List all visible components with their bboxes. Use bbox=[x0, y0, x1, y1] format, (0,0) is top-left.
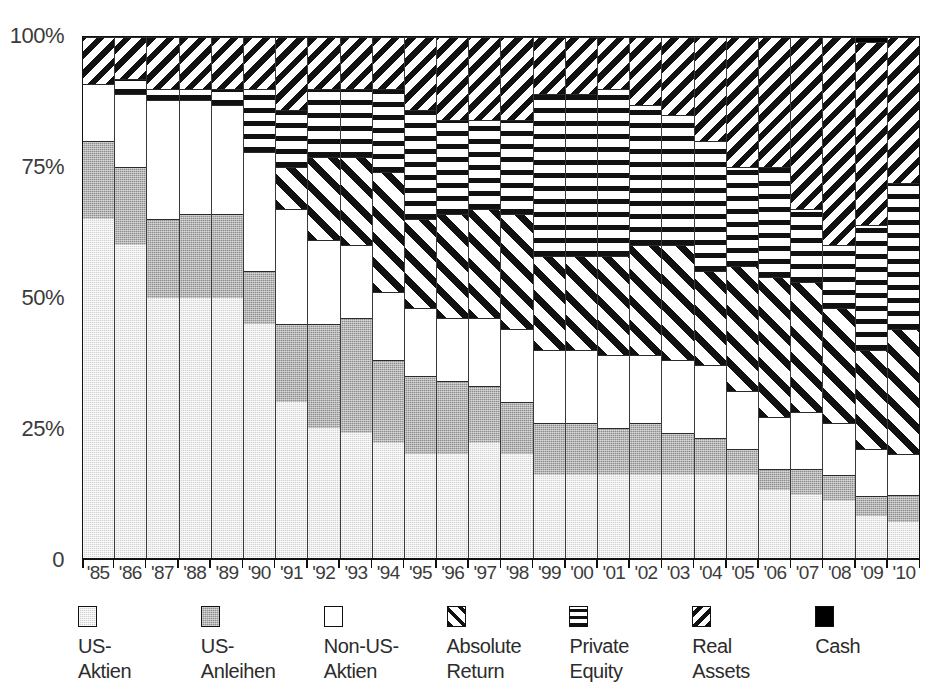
bar-segment[interactable] bbox=[566, 94, 597, 256]
bar-segment[interactable] bbox=[791, 282, 822, 412]
bar-segment[interactable] bbox=[276, 37, 307, 110]
bar-segment[interactable] bbox=[276, 167, 307, 209]
bar-segment[interactable] bbox=[727, 37, 758, 167]
bar-segment[interactable] bbox=[244, 37, 275, 89]
bar-segment[interactable] bbox=[759, 469, 790, 490]
bar-segment[interactable] bbox=[373, 89, 404, 172]
bar-segment[interactable] bbox=[823, 423, 854, 475]
bar-segment[interactable] bbox=[437, 120, 468, 214]
bar-column[interactable] bbox=[695, 37, 727, 558]
bar-segment[interactable] bbox=[180, 89, 211, 99]
bar-column[interactable] bbox=[566, 37, 598, 558]
bar-segment[interactable] bbox=[501, 214, 532, 329]
bar-segment[interactable] bbox=[501, 402, 532, 454]
bar-segment[interactable] bbox=[180, 214, 211, 297]
bar-segment[interactable] bbox=[373, 37, 404, 89]
bar-segment[interactable] bbox=[534, 37, 565, 94]
bar-segment[interactable] bbox=[630, 423, 661, 475]
bar-segment[interactable] bbox=[373, 292, 404, 360]
bar-segment[interactable] bbox=[856, 225, 887, 350]
bar-segment[interactable] bbox=[341, 433, 372, 558]
bar-segment[interactable] bbox=[276, 110, 307, 167]
bar-segment[interactable] bbox=[212, 89, 243, 105]
bar-segment[interactable] bbox=[244, 324, 275, 558]
bar-segment[interactable] bbox=[437, 381, 468, 454]
bar-column[interactable] bbox=[469, 37, 501, 558]
bar-column[interactable] bbox=[115, 37, 147, 558]
bar-segment[interactable] bbox=[566, 37, 597, 94]
bar-segment[interactable] bbox=[823, 501, 854, 558]
bar-segment[interactable] bbox=[212, 37, 243, 89]
bar-segment[interactable] bbox=[501, 120, 532, 214]
bar-segment[interactable] bbox=[566, 475, 597, 558]
bar-column[interactable] bbox=[888, 37, 919, 558]
bar-segment[interactable] bbox=[823, 37, 854, 245]
bar-segment[interactable] bbox=[759, 277, 790, 418]
bar-column[interactable] bbox=[791, 37, 823, 558]
bar-segment[interactable] bbox=[630, 37, 661, 105]
bar-segment[interactable] bbox=[630, 475, 661, 558]
bar-segment[interactable] bbox=[405, 376, 436, 454]
bar-segment[interactable] bbox=[759, 167, 790, 276]
bar-segment[interactable] bbox=[212, 105, 243, 214]
legend-item[interactable]: Real Assets bbox=[692, 606, 815, 694]
bar-column[interactable] bbox=[501, 37, 533, 558]
bar-segment[interactable] bbox=[341, 89, 372, 157]
bar-column[interactable] bbox=[373, 37, 405, 558]
bar-segment[interactable] bbox=[856, 350, 887, 449]
bar-column[interactable] bbox=[856, 37, 888, 558]
bar-segment[interactable] bbox=[308, 37, 339, 89]
bar-segment[interactable] bbox=[244, 152, 275, 272]
bar-segment[interactable] bbox=[373, 443, 404, 558]
bar-column[interactable] bbox=[759, 37, 791, 558]
bar-segment[interactable] bbox=[695, 271, 726, 365]
bar-segment[interactable] bbox=[83, 84, 114, 141]
bar-segment[interactable] bbox=[695, 475, 726, 558]
bar-segment[interactable] bbox=[469, 443, 500, 558]
bar-segment[interactable] bbox=[276, 209, 307, 324]
bar-segment[interactable] bbox=[598, 428, 629, 475]
bar-segment[interactable] bbox=[147, 219, 178, 297]
bar-segment[interactable] bbox=[727, 167, 758, 266]
legend-item[interactable]: Cash bbox=[815, 606, 938, 694]
bar-column[interactable] bbox=[630, 37, 662, 558]
bar-segment[interactable] bbox=[791, 469, 822, 495]
bar-segment[interactable] bbox=[501, 37, 532, 120]
bar-segment[interactable] bbox=[534, 94, 565, 256]
legend-item[interactable]: US- Aktien bbox=[78, 606, 201, 694]
bar-segment[interactable] bbox=[534, 350, 565, 423]
bar-segment[interactable] bbox=[888, 454, 919, 496]
bar-segment[interactable] bbox=[469, 120, 500, 209]
bar-segment[interactable] bbox=[791, 37, 822, 209]
bar-segment[interactable] bbox=[534, 256, 565, 350]
bar-segment[interactable] bbox=[341, 245, 372, 318]
bar-column[interactable] bbox=[244, 37, 276, 558]
bar-segment[interactable] bbox=[244, 89, 275, 152]
bar-column[interactable] bbox=[662, 37, 694, 558]
bar-segment[interactable] bbox=[115, 94, 146, 167]
bar-segment[interactable] bbox=[888, 522, 919, 558]
bar-segment[interactable] bbox=[727, 475, 758, 558]
bar-segment[interactable] bbox=[405, 219, 436, 308]
bar-segment[interactable] bbox=[437, 454, 468, 558]
bar-segment[interactable] bbox=[147, 100, 178, 220]
bar-segment[interactable] bbox=[276, 324, 307, 402]
bar-segment[interactable] bbox=[662, 475, 693, 558]
bar-segment[interactable] bbox=[212, 214, 243, 297]
bar-segment[interactable] bbox=[115, 79, 146, 95]
bar-segment[interactable] bbox=[630, 105, 661, 246]
bar-segment[interactable] bbox=[180, 100, 211, 215]
bar-segment[interactable] bbox=[566, 423, 597, 475]
bar-segment[interactable] bbox=[405, 37, 436, 110]
bar-segment[interactable] bbox=[695, 141, 726, 271]
bar-segment[interactable] bbox=[856, 449, 887, 496]
bar-segment[interactable] bbox=[341, 37, 372, 89]
bar-segment[interactable] bbox=[630, 245, 661, 354]
bar-segment[interactable] bbox=[147, 89, 178, 99]
bar-column[interactable] bbox=[823, 37, 855, 558]
bar-segment[interactable] bbox=[308, 428, 339, 558]
bar-column[interactable] bbox=[598, 37, 630, 558]
bar-segment[interactable] bbox=[534, 475, 565, 558]
bar-segment[interactable] bbox=[373, 172, 404, 292]
bar-segment[interactable] bbox=[662, 433, 693, 475]
